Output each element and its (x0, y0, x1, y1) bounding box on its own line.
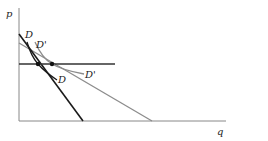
intersection-d-point (36, 62, 40, 66)
d-top-label: D (24, 29, 33, 40)
dprime-bottom-label: D' (84, 69, 96, 80)
intersection-dprime-point (50, 62, 54, 66)
dprime-top-label: D' (35, 39, 47, 50)
demand-diagram: p q D D' D D' (0, 0, 268, 141)
d-bottom-label: D (57, 74, 66, 85)
x-axis-label: q (217, 126, 223, 137)
y-axis-label: p (6, 8, 13, 19)
dprime-linear-line (19, 43, 152, 121)
